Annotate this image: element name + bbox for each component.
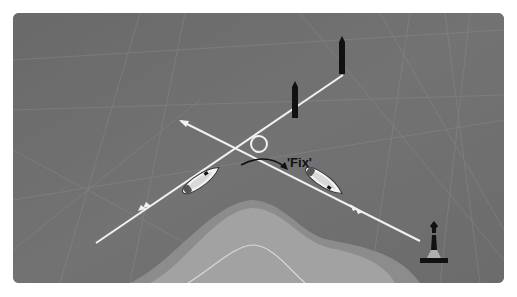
chart-diagram: 'Fix' xyxy=(13,13,504,283)
fix-label: 'Fix' xyxy=(287,155,312,170)
cardinal-mark-icon xyxy=(292,81,298,118)
cardinal-mark-icon xyxy=(339,36,345,74)
diagram-canvas xyxy=(13,13,504,283)
